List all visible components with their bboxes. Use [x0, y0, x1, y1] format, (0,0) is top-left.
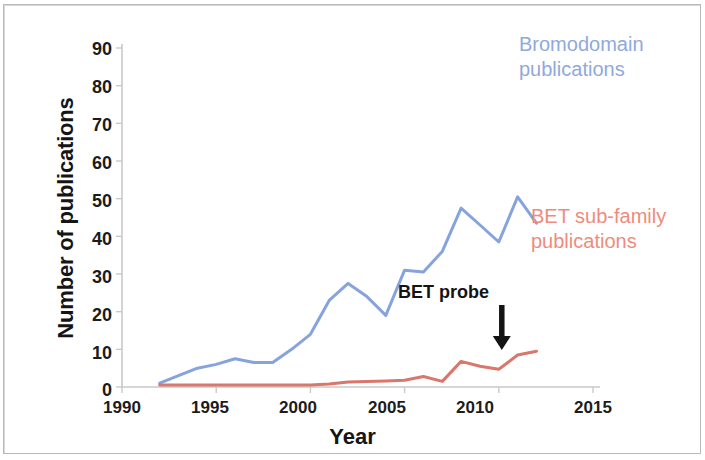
- y-tick-90: 90: [68, 40, 112, 58]
- y-tick-50: 50: [68, 192, 112, 210]
- chart-screenshot: Number of publications 90 80 70 60 50 40…: [0, 0, 705, 460]
- y-tick-10: 10: [68, 344, 112, 362]
- series-label-bromodomain: Bromodomain publications: [519, 32, 644, 82]
- y-tick-70: 70: [68, 116, 112, 134]
- y-tick-20: 20: [68, 306, 112, 324]
- x-tick-1990: 1990: [87, 399, 157, 417]
- series-label-bromodomain-line2: publications: [519, 57, 644, 82]
- series-line-bet: [160, 351, 537, 385]
- y-tick-30: 30: [68, 268, 112, 286]
- x-tick-2005: 2005: [352, 399, 422, 417]
- series-label-bet-line1: BET sub-family: [531, 204, 666, 229]
- x-axis-title: Year: [0, 424, 705, 450]
- chart-axes: [116, 44, 600, 393]
- x-tick-2015: 2015: [558, 399, 628, 417]
- x-tick-1995: 1995: [175, 399, 245, 417]
- y-tick-60: 60: [68, 154, 112, 172]
- x-tick-2010: 2010: [440, 399, 510, 417]
- annotation-bet-probe: BET probe: [398, 282, 489, 303]
- x-tick-2000: 2000: [263, 399, 333, 417]
- y-tick-40: 40: [68, 230, 112, 248]
- y-tick-0: 0: [68, 381, 112, 399]
- y-tick-80: 80: [68, 78, 112, 96]
- series-label-bet: BET sub-family publications: [531, 204, 666, 254]
- bet-probe-arrow-icon: [493, 305, 511, 350]
- series-label-bromodomain-line1: Bromodomain: [519, 32, 644, 57]
- series-label-bet-line2: publications: [531, 229, 666, 254]
